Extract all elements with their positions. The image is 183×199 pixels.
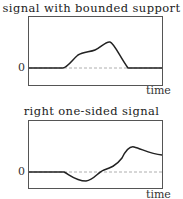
plot-frame-top [29, 17, 163, 86]
plot-frame-bottom [29, 121, 163, 189]
plots [0, 0, 183, 199]
signal-curve-bottom [29, 147, 162, 181]
signal-curve-top [29, 42, 162, 68]
